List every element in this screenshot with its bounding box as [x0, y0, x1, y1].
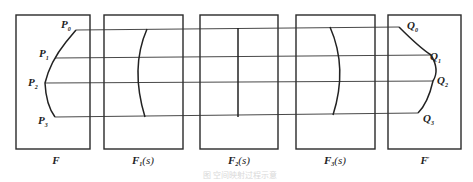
source-point-labels: P0 P1 P2 P3: [28, 18, 71, 128]
target-point-labels: Q0 Q1 Q2 Q3: [407, 19, 448, 126]
line-p3-q3: [55, 113, 418, 117]
panel-label-fprime: F′: [419, 154, 429, 166]
label-p0: P0: [61, 18, 71, 32]
panel-labels: F F1(s) F2(s) F3(s) F′: [51, 154, 430, 167]
label-p3: P3: [38, 114, 48, 128]
panel-label-f2: F2(s): [227, 154, 250, 167]
intermediate-curve-f3: [330, 27, 340, 115]
morph-sequence-diagram: P0 P1 P2 P3 Q0 Q1 Q2 Q3 F F1(s) F2(s) F3…: [0, 0, 473, 182]
source-curve: [45, 30, 76, 117]
panel-label-f: F: [51, 154, 60, 166]
label-p2: P2: [28, 76, 38, 90]
label-q0: Q0: [407, 19, 418, 33]
panel-fprime-frame: [388, 15, 461, 149]
panel-label-f1: F1(s): [131, 154, 154, 167]
label-q1: Q1: [430, 50, 441, 64]
target-curve: [399, 27, 436, 113]
label-p1: P1: [39, 47, 49, 61]
label-q2: Q2: [437, 74, 448, 88]
panel-label-f3: F3(s): [323, 154, 346, 167]
figure-caption: 图 空间映射过程示意: [203, 170, 277, 180]
label-q3: Q3: [423, 112, 434, 126]
intermediate-curve-f1: [138, 29, 147, 117]
